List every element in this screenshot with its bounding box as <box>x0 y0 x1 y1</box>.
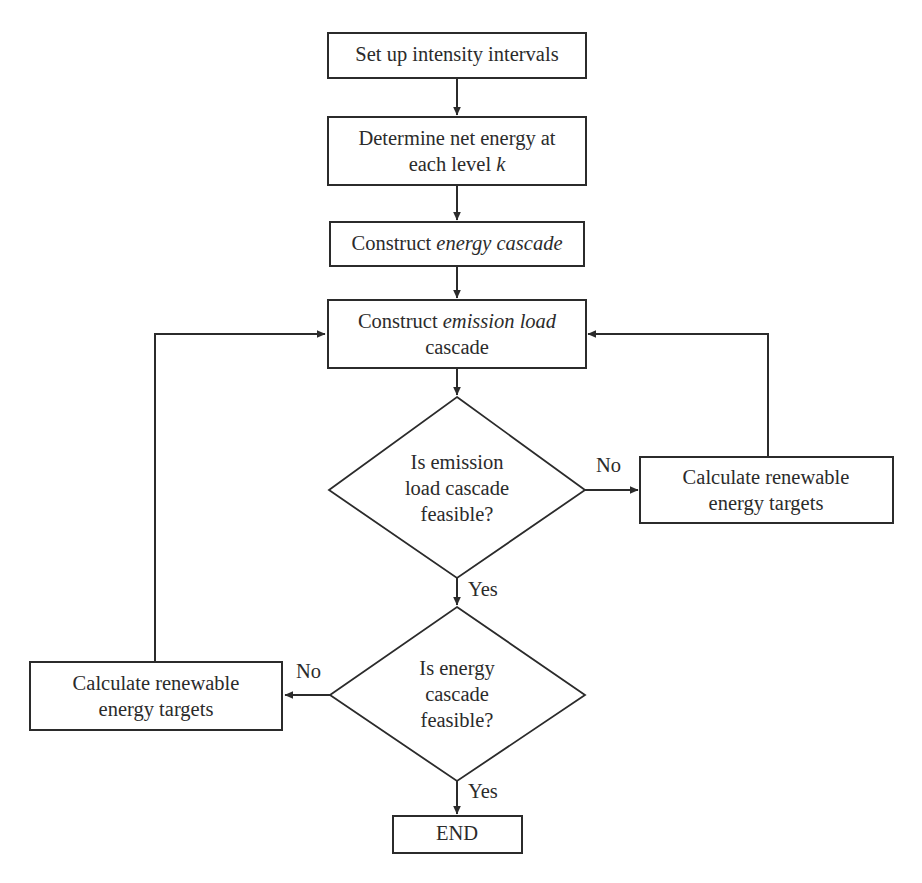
decision-emission-label-line3: feasible? <box>421 503 494 525</box>
node-end-label: END <box>436 822 478 844</box>
edge-label-energy-no: No <box>296 660 321 682</box>
edge-label-emission-no: No <box>596 454 621 476</box>
decision-emission-label-line2: load cascade <box>405 477 509 499</box>
node-determine-label-line2: each level k <box>409 153 507 175</box>
node-determine-line2-italic: k <box>496 153 506 175</box>
node-setup-intensity-intervals: Set up intensity intervals <box>328 33 586 78</box>
edge-renewable-right-feedback-to-emission-cascade <box>588 334 768 457</box>
node-energy-cascade-label: Construct energy cascade <box>351 232 562 255</box>
node-determine-net-energy: Determine net energy at each level k <box>328 117 586 185</box>
node-renewable-right-label-line2: energy targets <box>709 492 824 515</box>
node-emission-cascade-italic-line2: cascade <box>425 336 489 358</box>
node-renewable-left-label-line2: energy targets <box>99 698 214 721</box>
node-construct-energy-cascade: Construct energy cascade <box>330 222 584 266</box>
node-calculate-renewable-energy-targets-right: Calculate renewable energy targets <box>640 457 893 523</box>
node-emission-cascade-prefix: Construct <box>358 310 443 332</box>
node-energy-cascade-italic: energy cascade <box>436 232 562 255</box>
node-renewable-left-label-line1: Calculate renewable <box>73 672 240 694</box>
node-emission-cascade-label-line1: Construct emission load <box>358 310 557 332</box>
node-renewable-right-label-line1: Calculate renewable <box>683 466 850 488</box>
node-determine-line2-prefix: each level <box>409 153 497 175</box>
decision-emission-label-line1: Is emission <box>411 451 504 473</box>
flowchart-diagram: Set up intensity intervals Determine net… <box>0 0 922 883</box>
node-emission-cascade-italic-line1: emission load <box>443 310 557 332</box>
decision-energy-label-line1: Is energy <box>419 657 495 680</box>
edge-label-emission-yes: Yes <box>468 578 498 600</box>
node-setup-label: Set up intensity intervals <box>355 43 558 66</box>
decision-energy-label-line3: feasible? <box>421 709 494 731</box>
node-determine-label-line1: Determine net energy at <box>358 127 555 150</box>
node-energy-cascade-prefix: Construct <box>351 232 436 254</box>
node-end-terminal: END <box>393 816 522 853</box>
decision-energy-cascade-feasible: Is energy cascade feasible? <box>330 607 585 781</box>
decision-emission-load-cascade-feasible: Is emission load cascade feasible? <box>329 397 585 578</box>
edge-renewable-left-feedback-to-emission-cascade <box>155 334 325 662</box>
decision-energy-label-line2: cascade <box>425 683 489 705</box>
node-calculate-renewable-energy-targets-left: Calculate renewable energy targets <box>30 662 282 730</box>
node-construct-emission-load-cascade: Construct emission load cascade <box>328 300 586 368</box>
flowchart-canvas: Set up intensity intervals Determine net… <box>0 0 922 883</box>
edge-label-energy-yes: Yes <box>468 780 498 802</box>
